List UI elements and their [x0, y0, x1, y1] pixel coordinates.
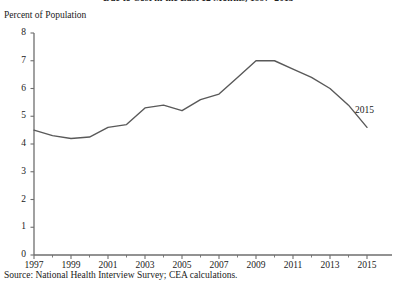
y-tick-label: 4	[10, 138, 26, 148]
source-note: Source: National Health Interview Survey…	[4, 270, 237, 280]
y-tick-label: 7	[10, 55, 26, 65]
y-tick-label: 2	[10, 194, 26, 204]
y-tick-label: 6	[10, 83, 26, 93]
x-tick-label: 2005	[165, 260, 199, 270]
y-tick-label: 3	[10, 166, 26, 176]
y-tick-label: 0	[10, 249, 26, 259]
chart-plot-svg	[0, 0, 397, 270]
x-tick-label: 2001	[91, 260, 125, 270]
x-tick-label: 2003	[128, 260, 162, 270]
chart-figure: Due to Cost in the Last 12 Months, 1997–…	[0, 0, 397, 289]
x-tick-label: 2015	[350, 260, 384, 270]
x-tick-label: 1999	[54, 260, 88, 270]
plot-area: 012345678 199719992001200320052007200920…	[0, 0, 397, 270]
x-tick-label: 1997	[17, 260, 51, 270]
y-tick-label: 1	[10, 221, 26, 231]
x-tick-label: 2009	[239, 260, 273, 270]
x-tick-label: 2007	[202, 260, 236, 270]
series-end-annotation: 2015	[355, 105, 374, 115]
y-tick-label: 8	[10, 27, 26, 37]
data-line-percent-of-population	[34, 61, 367, 139]
series-group	[34, 61, 367, 139]
x-tick-label: 2011	[276, 260, 310, 270]
x-tick-label: 2013	[313, 260, 347, 270]
axes-group	[31, 33, 393, 259]
y-tick-label: 5	[10, 110, 26, 120]
